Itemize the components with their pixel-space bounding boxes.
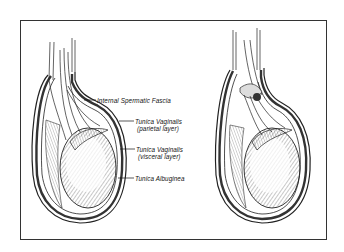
label-subline: (parietal layer)	[135, 125, 182, 132]
label-line: Internal Spermatic Fascia	[97, 97, 171, 104]
left-view	[32, 38, 126, 223]
right-view	[216, 28, 311, 223]
label-tunica-vaginalis-parietal: Tunica Vaginalis (parietal layer)	[135, 118, 182, 132]
label-tunica-vaginalis-visceral: Tunica Vaginalis (visceral layer)	[136, 146, 183, 160]
label-line: Tunica Vaginalis	[136, 146, 183, 153]
right-twisted-cord	[233, 28, 285, 135]
label-tunica-albuginea: Tunica Albuginea	[135, 175, 185, 182]
label-subline: (visceral layer)	[136, 153, 183, 160]
torsion-point	[253, 93, 261, 101]
label-line: Tunica Albuginea	[135, 175, 185, 182]
left-epididymis-body	[46, 120, 62, 208]
label-internal-spermatic-fascia: Internal Spermatic Fascia	[97, 97, 171, 104]
label-line: Tunica Vaginalis	[135, 118, 182, 125]
